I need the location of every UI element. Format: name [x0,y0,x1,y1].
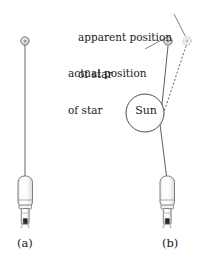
starlight-deflection-figure: apparent position of star actual positio… [0,0,199,261]
panel-b-caption: (b) [162,237,178,251]
apparent-leader-line [174,14,185,36]
panel-b-apparent-star-icon [183,37,191,45]
panel-a-star-icon [21,37,29,45]
panel-a [18,37,33,228]
panel-a-telescope-icon [18,176,33,228]
panel-a-caption: (a) [17,237,33,251]
sun-label: Sun [131,105,161,118]
actual-position-label: actual position of star [68,42,147,141]
actual-position-line-1: actual position [68,67,147,79]
panel-b-telescope-icon [160,176,175,228]
